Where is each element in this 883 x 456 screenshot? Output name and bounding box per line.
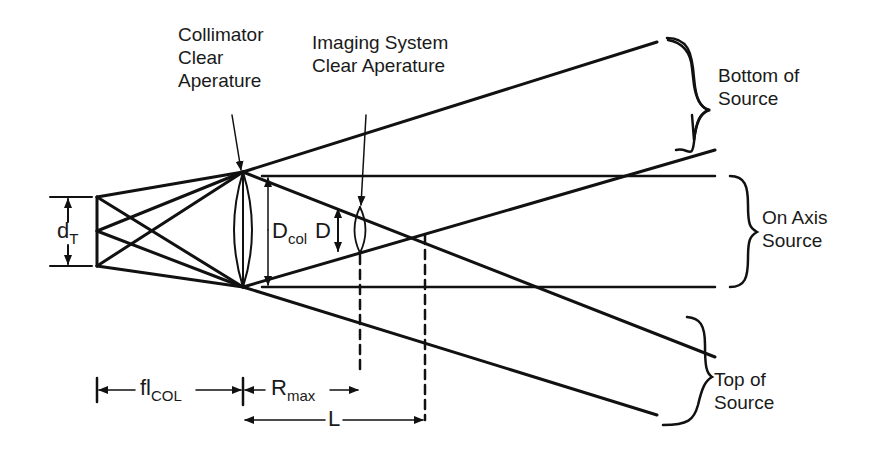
on-axis-source-line2: Source [762, 229, 827, 252]
bottom-of-source-line1: Bottom of [718, 64, 799, 87]
bottom-of-source-line2: Source [718, 87, 799, 110]
imaging-system-label-line1: Imaging System [312, 31, 448, 54]
symbol-Dcol-main: D [272, 218, 288, 243]
symbol-D-main: D [315, 218, 331, 243]
imaging-system-label: Imaging System Clear Aperature [312, 31, 448, 77]
symbol-dT-sub: T [69, 230, 78, 247]
symbol-D: D [315, 218, 331, 244]
collimator-label-line2: Clear [178, 46, 264, 69]
bottom-of-source-label: Bottom of Source [718, 64, 799, 110]
symbol-L-main: L [328, 406, 340, 431]
symbol-Dcol: Dcol [272, 218, 307, 244]
symbol-dT-main: d [57, 218, 69, 243]
collimator-label: Collimator Clear Aperature [178, 23, 264, 92]
symbol-flCOL: flCOL [140, 375, 182, 401]
top-of-source-line2: Source [714, 391, 774, 414]
symbol-flCOL-main: fl [140, 375, 151, 400]
symbol-L: L [328, 406, 340, 432]
symbol-Rmax-sub: max [287, 387, 315, 404]
symbol-Rmax-main: R [271, 375, 287, 400]
symbol-Rmax: Rmax [271, 375, 315, 401]
on-axis-source-line1: On Axis [762, 206, 827, 229]
collimator-label-line1: Collimator [178, 23, 264, 46]
on-axis-source-label: On Axis Source [762, 206, 827, 252]
symbol-Dcol-sub: col [288, 230, 307, 247]
symbol-dT: dT [57, 218, 78, 244]
collimator-label-line3: Aperature [178, 69, 264, 92]
top-of-source-line1: Top of [714, 368, 774, 391]
top-of-source-label: Top of Source [714, 368, 774, 414]
symbol-flCOL-sub: COL [151, 387, 182, 404]
brace-bottom-of-source [668, 40, 708, 140]
imaging-system-label-line2: Clear Aperature [312, 54, 448, 77]
